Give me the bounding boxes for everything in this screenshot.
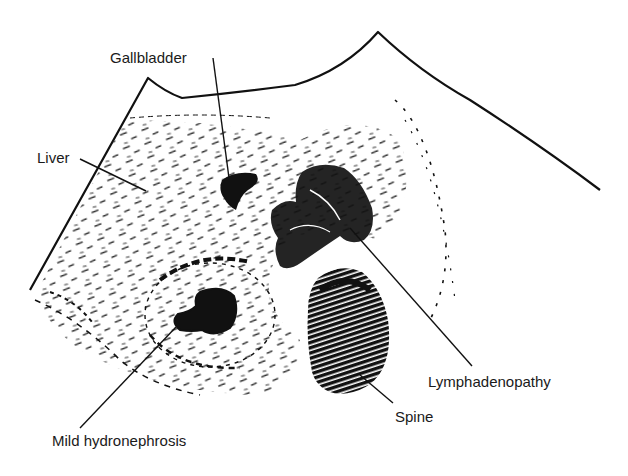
label-mild-hydronephrosis: Mild hydronephrosis xyxy=(52,433,186,448)
spine xyxy=(308,268,390,394)
ultrasound-diagram xyxy=(0,0,628,476)
label-lymphadenopathy: Lymphadenopathy xyxy=(428,374,551,389)
label-spine: Spine xyxy=(395,409,433,424)
label-liver: Liver xyxy=(37,150,70,165)
label-gallbladder: Gallbladder xyxy=(110,50,187,65)
leader-spine xyxy=(360,375,393,403)
liver-parenchyma xyxy=(38,100,455,395)
